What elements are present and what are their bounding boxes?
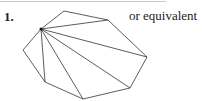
diagonal-line (41, 29, 147, 57)
apex-vertex-dot (40, 28, 43, 31)
triangulated-polygon-diagram (0, 0, 202, 101)
polygon-outline (23, 11, 147, 99)
diagonal-line (41, 29, 130, 88)
diagonal-line (41, 29, 45, 82)
diagonal-line (41, 29, 83, 99)
